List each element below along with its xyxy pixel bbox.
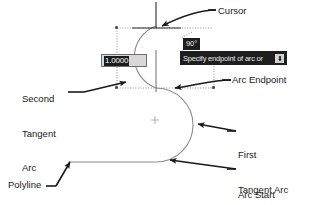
prompt-text: Specify endpoint of arc or bbox=[183, 54, 275, 63]
leader-lines bbox=[56, 10, 236, 186]
cad-geometry bbox=[68, 26, 193, 162]
polyline-start-point-label: Polyline Start Point bbox=[8, 156, 41, 205]
first-tangent-arc bbox=[156, 88, 193, 162]
angle-readout-chip: 90° bbox=[183, 38, 200, 50]
radius-input-value[interactable]: 1.0000 bbox=[104, 56, 129, 66]
snap-node-top-left bbox=[115, 26, 118, 29]
leader-first-tangent bbox=[198, 124, 236, 131]
arc-center-marker bbox=[151, 116, 159, 124]
snap-node-bottom-right bbox=[212, 86, 215, 89]
snap-node-bottom-left bbox=[115, 86, 118, 89]
polyline-start-point-label-line1: Polyline bbox=[8, 179, 41, 191]
second-tangent-arc-label-line1: Second bbox=[22, 93, 56, 105]
down-arrow-key-icon[interactable]: ⬇ bbox=[275, 54, 284, 63]
second-tangent-arc-label-line2: Tangent bbox=[22, 128, 56, 140]
leader-arc-start bbox=[170, 160, 236, 169]
leader-cursor bbox=[162, 10, 216, 26]
leader-arc-endpoint bbox=[175, 80, 231, 88]
leader-second-tangent bbox=[84, 82, 126, 92]
first-tangent-arc-label-line1: First bbox=[238, 149, 288, 161]
arc-start-point-label-line1: Arc Start bbox=[238, 189, 275, 201]
crosshair-icon bbox=[132, 2, 181, 28]
dynamic-input-prompt[interactable]: Specify endpoint of arc or ⬇ bbox=[180, 51, 287, 65]
illustration-canvas: 1.0000 90° Specify endpoint of arc or ⬇ … bbox=[0, 0, 312, 205]
arc-start-point-label: Arc Start Point bbox=[238, 166, 275, 205]
leader-polyline-start bbox=[56, 162, 70, 186]
cursor-label: Cursor bbox=[218, 5, 247, 17]
arc-endpoint-label: Arc Endpoint bbox=[232, 74, 286, 86]
radius-input-field[interactable]: 1.0000 bbox=[101, 54, 147, 67]
